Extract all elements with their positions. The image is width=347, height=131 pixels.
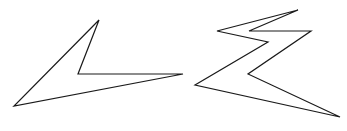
right-polygon-shape [195,10,340,117]
figure-svg [0,0,347,131]
figure-canvas [0,0,347,131]
left-polygon-shape [14,20,183,106]
